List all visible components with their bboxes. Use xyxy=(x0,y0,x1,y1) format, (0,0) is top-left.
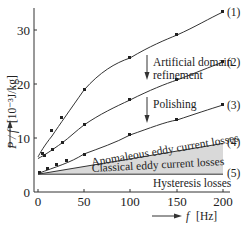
y-axis-label: P / f [10⁻³J/kg] xyxy=(6,75,19,150)
curve-1-label: (1) xyxy=(227,6,241,19)
annotation-refinement: refinement xyxy=(153,69,204,81)
curve-3-label: (3) xyxy=(227,99,241,112)
x-axis-arrow-icon xyxy=(152,214,182,219)
curve-1-points xyxy=(41,10,224,155)
down-arrow-icon xyxy=(145,55,150,80)
y-tick-30: 30 xyxy=(17,23,30,38)
x-tick-50: 50 xyxy=(78,194,91,209)
down-arrow-icon xyxy=(145,97,150,123)
annotation-polishing: Polishing xyxy=(153,98,197,111)
svg-text:P / f [10⁻³J/kg]: P / f [10⁻³J/kg] xyxy=(6,75,19,150)
x-axis-label: f [Hz] xyxy=(186,210,217,223)
y-tick-20: 20 xyxy=(17,77,30,92)
x-tick-0: 0 xyxy=(35,194,42,209)
x-tick-100: 100 xyxy=(120,194,140,209)
x-tick-200: 200 xyxy=(213,194,233,209)
annotation-artificial-domain: Artificial domain xyxy=(153,56,233,68)
region-hysteresis-label: Hysteresis losses xyxy=(153,177,232,190)
x-tick-150: 150 xyxy=(167,194,187,209)
y-tick-0: 0 xyxy=(24,185,31,200)
y-tick-10: 10 xyxy=(17,131,30,146)
loss-chart: 30 20 10 0 0 50 100 150 200 P / f [10⁻³J… xyxy=(0,0,248,225)
